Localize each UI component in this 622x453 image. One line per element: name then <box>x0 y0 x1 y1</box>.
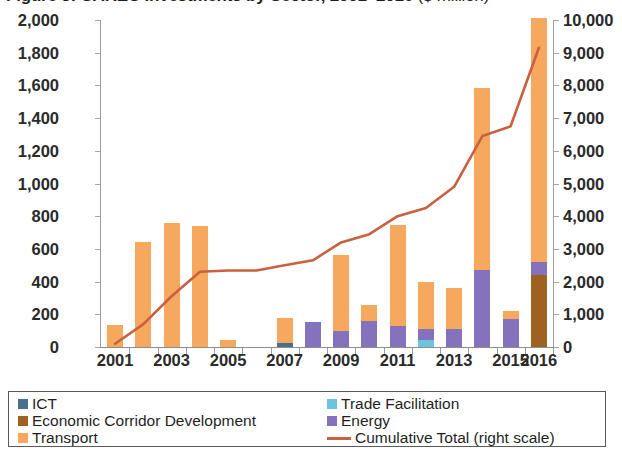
bar-2005 <box>220 20 236 347</box>
legend-label: Cumulative Total (right scale) <box>355 430 555 446</box>
y-axis-left-tick <box>95 314 100 315</box>
bar-2011 <box>390 20 406 347</box>
y-axis-left-tick-label: 0 <box>50 339 59 356</box>
bar-segment-transport <box>503 311 519 319</box>
bar-segment-economic_corridor <box>531 275 547 347</box>
y-axis-right-tick-label: 2,000 <box>563 274 604 291</box>
bar-segment-energy <box>361 321 377 347</box>
x-axis-tick-label: 2007 <box>266 352 303 369</box>
y-axis-left-tick <box>95 118 100 119</box>
y-axis-left-tick <box>95 184 100 185</box>
legend-item: Economic Corridor Development <box>18 412 256 429</box>
y-axis-right-tick-label: 7,000 <box>563 110 604 127</box>
bar-2015 <box>503 20 519 347</box>
bar-segment-energy <box>474 270 490 347</box>
bar-segment-transport <box>474 88 490 270</box>
y-axis-left-tick <box>95 282 100 283</box>
y-axis-left-tick-label: 1,800 <box>18 45 59 62</box>
y-axis-left-tick-label: 600 <box>31 241 59 258</box>
y-axis-right-tick <box>554 184 559 185</box>
bar-segment-transport <box>164 223 180 347</box>
bar-2012 <box>418 20 434 347</box>
y-axis-left-tick <box>95 20 100 21</box>
chart-title: Figure 3: CAREC Investments by Sector, 2… <box>6 0 489 6</box>
legend-swatch-trade_facilitation <box>327 399 337 409</box>
x-axis-tick-label: 2003 <box>153 352 190 369</box>
chart-title-text: Figure 3: CAREC Investments by Sector, 2… <box>6 0 413 5</box>
bar-segment-energy <box>503 319 519 347</box>
y-axis-left-tick <box>95 249 100 250</box>
bar-2001 <box>107 20 123 347</box>
bar-2007 <box>277 20 293 347</box>
legend-label: ICT <box>32 396 57 412</box>
y-axis-left-tick-label: 1,600 <box>18 77 59 94</box>
legend-label: Economic Corridor Development <box>32 413 256 429</box>
y-axis-right-tick-label: 8,000 <box>563 77 604 94</box>
y-axis-left-tick-label: 400 <box>31 274 59 291</box>
y-axis-left-tick <box>95 53 100 54</box>
y-axis-left-tick-label: 2,000 <box>18 12 59 29</box>
x-axis-tick-label: 2016 <box>521 352 558 369</box>
bar-segment-energy <box>333 331 349 347</box>
bar-segment-transport <box>135 242 151 347</box>
y-axis-right-tick-label: 3,000 <box>563 241 604 258</box>
y-axis-left-tick-label: 1,200 <box>18 143 59 160</box>
bar-segment-transport <box>192 226 208 347</box>
y-axis-right-tick <box>554 151 559 152</box>
y-axis-right-tick-label: 6,000 <box>563 143 604 160</box>
y-axis-right-tick <box>554 249 559 250</box>
bar-segment-transport <box>531 18 547 262</box>
legend-item: ICT <box>18 395 256 412</box>
bar-segment-energy <box>390 326 406 347</box>
bar-segment-transport <box>418 282 434 329</box>
bar-segment-energy <box>531 262 547 275</box>
chart-figure: Figure 3: CAREC Investments by Sector, 2… <box>0 0 622 453</box>
y-axis-right-tick-label: 9,000 <box>563 45 604 62</box>
y-axis-right-tick <box>554 85 559 86</box>
bar-2008 <box>305 20 321 347</box>
y-axis-right-tick-label: 4,000 <box>563 208 604 225</box>
y-axis-right-tick <box>554 347 559 348</box>
bar-segment-transport <box>277 318 293 343</box>
legend-swatch-transport <box>18 433 28 443</box>
bar-2016 <box>531 20 547 347</box>
y-axis-right-tick-label: 0 <box>563 339 572 356</box>
bar-segment-energy <box>418 329 434 340</box>
y-axis-left-tick-label: 800 <box>31 208 59 225</box>
x-axis-tick-label: 2013 <box>436 352 473 369</box>
legend-swatch-energy <box>327 416 337 426</box>
bar-segment-transport <box>446 288 462 329</box>
bar-2002 <box>135 20 151 347</box>
y-axis-left-tick-label: 1,000 <box>18 176 59 193</box>
chart-legend: ICTEconomic Corridor DevelopmentTranspor… <box>8 391 606 447</box>
bar-segment-ict <box>277 343 293 347</box>
y-axis-right-tick-label: 10,000 <box>563 12 613 29</box>
legend-label: Transport <box>32 430 98 446</box>
legend-item: Transport <box>18 430 256 447</box>
y-axis-left-tick <box>95 347 100 348</box>
legend-item: Trade Facilitation <box>327 395 555 412</box>
bar-segment-transport <box>220 340 236 347</box>
plot-area <box>101 20 553 347</box>
legend-item: Cumulative Total (right scale) <box>327 430 555 447</box>
y-axis-right-tick-label: 1,000 <box>563 306 604 323</box>
bar-segment-transport <box>390 225 406 326</box>
y-axis-right-tick <box>554 314 559 315</box>
y-axis-left-tick <box>95 151 100 152</box>
x-axis-tick-label: 2001 <box>97 352 134 369</box>
bar-segment-transport <box>107 325 123 347</box>
bar-segment-transport <box>361 305 377 321</box>
legend-column-one: ICTEconomic Corridor DevelopmentTranspor… <box>18 395 256 447</box>
y-axis-left-tick <box>95 85 100 86</box>
bar-2004 <box>192 20 208 347</box>
legend-label: Trade Facilitation <box>341 396 459 412</box>
legend-swatch-ict <box>18 399 28 409</box>
bar-segment-trade_facilitation <box>418 340 434 347</box>
legend-swatch-line <box>327 437 351 440</box>
bar-segment-energy <box>446 329 462 347</box>
x-axis-tick-label: 2005 <box>210 352 247 369</box>
x-axis-tick-label: 2009 <box>323 352 360 369</box>
bar-segment-energy <box>305 322 321 347</box>
legend-column-two: Trade FacilitationEnergyCumulative Total… <box>327 395 555 447</box>
y-axis-right-tick <box>554 53 559 54</box>
